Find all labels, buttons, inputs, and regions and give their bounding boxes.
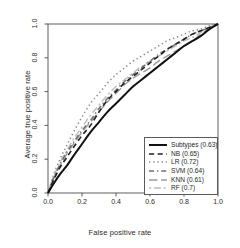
legend-item-subtypes: Subtypes (0.63) [145, 141, 217, 150]
legend-label: NB (0.65) [171, 150, 199, 158]
x-tick-label: 0.2 [73, 198, 91, 205]
x-tick-label: 0.4 [107, 198, 125, 205]
legend-line-sample-icon [148, 167, 168, 175]
legend-label: RF (0.7) [171, 184, 195, 192]
legend-line-sample-icon [148, 150, 168, 158]
y-tick-label: 0.8 [31, 48, 38, 66]
legend-item-nb: NB (0.65) [145, 150, 217, 159]
y-tick-label: 0.0 [31, 184, 38, 202]
x-tick-label: 0.0 [39, 198, 57, 205]
x-tick-label: 0.8 [175, 198, 193, 205]
legend-line-sample-icon [148, 141, 168, 149]
legend-item-lr: LR (0.72) [145, 158, 217, 167]
legend-item-rf: RF (0.7) [145, 184, 217, 193]
y-tick-label: 0.2 [31, 150, 38, 168]
roc-curve-figure: False positive rate Average true positiv… [0, 0, 240, 248]
y-tick-label: 1.0 [31, 15, 38, 33]
legend-label: LR (0.72) [171, 158, 199, 166]
x-tick-label: 1.0 [209, 198, 227, 205]
legend-line-sample-icon [148, 184, 168, 192]
y-tick-label: 0.6 [31, 82, 38, 100]
legend-line-sample-icon [148, 158, 168, 166]
x-tick-label: 0.6 [141, 198, 159, 205]
y-tick-label: 0.4 [31, 116, 38, 134]
legend: Subtypes (0.63)NB (0.65)LR (0.72)SVM (0.… [144, 137, 218, 195]
legend-label: Subtypes (0.63) [171, 141, 218, 149]
legend-label: SVM (0.64) [171, 167, 204, 175]
legend-line-sample-icon [148, 176, 168, 184]
legend-item-knn: KNN (0.61) [145, 175, 217, 184]
legend-label: KNN (0.61) [171, 176, 204, 184]
legend-item-svm: SVM (0.64) [145, 167, 217, 176]
x-axis-title: False positive rate [0, 228, 240, 237]
